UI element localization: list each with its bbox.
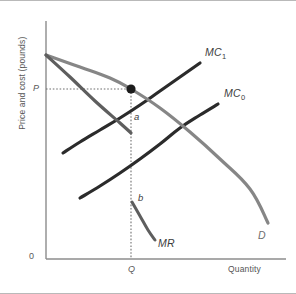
curve-label-mc0: MC0: [224, 88, 245, 99]
y-axis-title: Price and cost (pounds): [18, 23, 27, 143]
equilibrium-point-marker: [126, 84, 135, 93]
point-b-label: b: [138, 193, 143, 203]
curve-label-mc0-text: MC: [224, 87, 241, 99]
curve-mc-1: [63, 63, 200, 153]
curve-label-mc0-subscript: 0: [241, 93, 245, 102]
curve-series-group: [46, 55, 268, 240]
curve-mc-0: [80, 104, 218, 198]
origin-label: 0: [29, 252, 34, 261]
price-tick-label: P: [33, 84, 39, 93]
quantity-tick-label: Q: [128, 265, 135, 274]
x-axis-title: Quantity: [228, 265, 261, 274]
point-a-label: a: [134, 112, 139, 122]
economics-chart-figure: Price and cost (pounds) Quantity 0 P Q a…: [0, 0, 296, 294]
curve-label-d: D: [258, 230, 266, 241]
curve-label-mc1: MC1: [205, 47, 226, 58]
curve-label-mc1-subscript: 1: [222, 52, 226, 61]
chart-canvas: [0, 1, 296, 294]
curve-label-mr: MR: [158, 238, 175, 249]
curve-mr-lower: [132, 202, 155, 240]
curve-mr: [46, 55, 131, 133]
curve-label-mc1-text: MC: [205, 46, 222, 58]
